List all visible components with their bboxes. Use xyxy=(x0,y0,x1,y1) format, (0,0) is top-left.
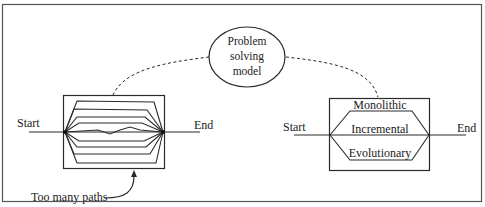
left-end-label: End xyxy=(194,118,213,132)
node-line-1: Problem xyxy=(228,35,267,47)
node-line-2: solving xyxy=(230,50,264,63)
problem-solving-model-node: Problem solving model xyxy=(209,27,285,87)
problem-solving-diagram: Problem solving model Start End Too many… xyxy=(0,0,485,207)
connector-right xyxy=(286,57,378,97)
right-end-label: End xyxy=(457,121,476,135)
path-label-incremental: Incremental xyxy=(351,122,409,136)
arrow-head-icon xyxy=(131,170,137,177)
too-many-paths-annotation: Too many paths xyxy=(31,190,108,204)
connector-left xyxy=(113,57,209,95)
right-start-label: Start xyxy=(283,120,306,134)
annotation-arrow xyxy=(105,176,134,198)
left-panel-many-paths xyxy=(29,96,200,169)
left-start-label: Start xyxy=(17,116,40,130)
path-label-monolithic: Monolithic xyxy=(353,98,406,112)
path-label-evolutionary: Evolutionary xyxy=(349,146,412,160)
node-line-3: model xyxy=(233,65,262,77)
